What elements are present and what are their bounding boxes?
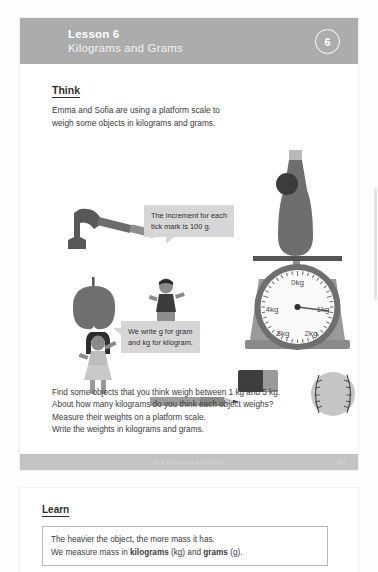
learn-line-1: The heavier the object, the more mass it… (51, 533, 319, 546)
lesson-page-card: Lesson 6 Kilograms and Grams 6 Think Emm… (20, 18, 358, 470)
lesson-title-label: Kilograms and Grams (68, 41, 183, 55)
bubble-units-line-1: We write g for gram (128, 326, 193, 337)
dial-label-4kg: 4kg (266, 305, 279, 314)
instruction-line-2: About how many kilograms do you think ea… (52, 399, 320, 411)
scrollbar-track[interactable] (374, 188, 377, 300)
lesson-header-text: Lesson 6 Kilograms and Grams (68, 27, 183, 55)
footer-chapter-label: 11.6 Kilograms and Grams (20, 459, 358, 465)
learn-line-2-mid: (kg) and (169, 548, 204, 557)
learn-term-kilograms: kilograms (130, 548, 169, 557)
apple-icon (68, 277, 120, 335)
learn-term-grams: grams (203, 548, 228, 557)
instruction-line-3: Measure their weights on a platform scal… (52, 412, 320, 424)
learn-line-2-suffix: (g). (228, 548, 243, 557)
learn-definition-box: The heavier the object, the more mass it… (42, 526, 328, 566)
instruction-line-4: Write the weights in kilograms and grams… (52, 424, 320, 436)
learn-line-2-prefix: We measure mass in (51, 548, 130, 557)
bubble-tail (166, 236, 175, 244)
learn-page-card: Learn The heavier the object, the more m… (20, 488, 358, 572)
lesson-header-band: Lesson 6 Kilograms and Grams 6 (20, 18, 358, 64)
think-line-1: Emma and Sofia are using a platform scal… (52, 104, 248, 117)
learn-line-2: We measure mass in kilograms (kg) and gr… (51, 546, 319, 559)
dial-hub (295, 304, 301, 310)
lesson-body: Think Emma and Sofia are using a platfor… (20, 64, 358, 470)
bubble-tail (113, 328, 122, 336)
think-line-2: weigh some objects in kilograms and gram… (52, 117, 248, 130)
dial-label-0kg: 0kg (291, 278, 304, 287)
think-heading: Think (52, 84, 80, 96)
learn-heading: Learn (42, 504, 69, 515)
footer-page-number: 107 (336, 459, 346, 465)
page-root: Lesson 6 Kilograms and Grams 6 Think Emm… (0, 0, 378, 572)
lesson-number-badge: 6 (315, 29, 340, 54)
dial-label-3kg: 3kg (277, 329, 290, 338)
speech-bubble-tick-increment: The increment for each tick mark is 100 … (144, 205, 234, 237)
platform-scale-illustration: 0kg 1kg 2kg 3kg 4kg (235, 144, 360, 363)
instruction-line-1: Find some objects that you think weigh b… (52, 387, 320, 399)
lesson-number-label: Lesson 6 (68, 27, 183, 41)
think-paragraph: Emma and Sofia are using a platform scal… (52, 104, 248, 129)
hammer-icon (60, 207, 156, 259)
bubble-units-line-2: and kg for kilogram. (128, 337, 193, 348)
scale-plate (253, 256, 342, 261)
bubble-tick-line-1: The increment for each (151, 210, 227, 221)
speech-bubble-units: We write g for gram and kg for kilogram. (121, 321, 200, 353)
lesson-footer: 11.6 Kilograms and Grams 107 (20, 454, 358, 470)
dial-label-2kg: 2kg (305, 329, 318, 338)
instructions-paragraph: Find some objects that you think weigh b… (52, 387, 320, 436)
bubble-tick-line-2: tick mark is 100 g. (151, 221, 227, 232)
bottle-icon (276, 150, 313, 256)
